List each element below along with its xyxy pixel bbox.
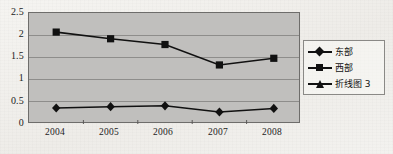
data-point-marker <box>53 28 60 35</box>
y-axis-tick-label: 0 <box>0 118 24 128</box>
data-point-marker <box>106 102 114 111</box>
data-point-marker <box>270 55 277 62</box>
y-axis-tick-label: 1 <box>0 73 24 83</box>
x-axis-tick-label: 2005 <box>82 127 136 137</box>
series-plot <box>29 13 301 124</box>
data-point-marker <box>215 107 223 116</box>
data-point-marker <box>161 101 169 110</box>
triangle-marker-icon <box>308 77 332 91</box>
y-axis-tick-label: 1.5 <box>0 51 24 61</box>
legend-item-label: 东部 <box>332 45 353 59</box>
legend-item-series3[interactable]: 折线图 3 <box>308 76 381 92</box>
diamond-marker-icon <box>308 45 332 59</box>
x-axis-tick-label: 2006 <box>136 127 190 137</box>
data-point-marker <box>270 104 278 113</box>
line-chart: 2.5 2 1.5 1 0.5 0 2004 2005 2006 2007 20… <box>0 0 393 154</box>
data-point-marker <box>107 35 114 42</box>
x-axis-tick-label: 2008 <box>245 127 299 137</box>
legend-item-label: 折线图 3 <box>332 77 371 91</box>
plot-area <box>28 12 300 123</box>
chart-legend: 东部 西部 折线图 3 <box>303 40 385 95</box>
series-line <box>56 32 274 65</box>
data-point-marker <box>52 103 60 112</box>
data-point-marker <box>216 61 223 68</box>
legend-item-dongbu[interactable]: 东部 <box>308 44 381 60</box>
y-axis-tick-label: 2.5 <box>0 7 24 17</box>
legend-item-xibu[interactable]: 西部 <box>308 60 381 76</box>
x-axis-tick-label: 2007 <box>191 127 245 137</box>
y-axis-tick-label: 0.5 <box>0 96 24 106</box>
data-point-marker <box>161 41 168 48</box>
y-axis-tick-label: 2 <box>0 29 24 39</box>
legend-item-label: 西部 <box>332 61 353 75</box>
square-marker-icon <box>308 61 332 75</box>
x-axis-tick-label: 2004 <box>28 127 82 137</box>
